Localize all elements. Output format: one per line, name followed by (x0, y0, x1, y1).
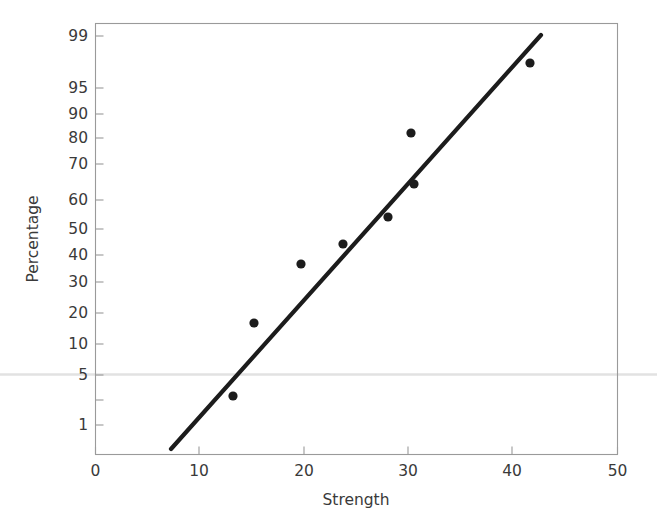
data-point (249, 318, 258, 327)
y-tick-label: 1 (78, 416, 88, 434)
fit-line (171, 35, 541, 449)
y-tick-label: 90 (68, 105, 88, 123)
data-point (406, 128, 415, 137)
y-tick-label: 80 (68, 129, 88, 147)
data-point (409, 179, 418, 188)
y-tick-label: 50 (68, 220, 88, 238)
y-tick-label: 5 (78, 366, 88, 384)
y-tick-marks (96, 36, 104, 425)
x-tick-labels: 0 10 20 30 40 50 (91, 462, 628, 480)
data-point (525, 58, 534, 67)
data-points (228, 58, 534, 400)
x-tick-label: 50 (608, 462, 628, 480)
y-tick-label: 20 (68, 304, 88, 322)
x-tick-label: 20 (294, 462, 314, 480)
y-tick-label: 99 (68, 27, 88, 45)
data-point (338, 239, 347, 248)
y-axis-title: Percentage (24, 195, 42, 282)
x-tick-label: 40 (502, 462, 522, 480)
y-tick-label: 40 (68, 246, 88, 264)
y-tick-label: 30 (68, 273, 88, 291)
x-tick-label: 0 (91, 462, 101, 480)
chart-canvas: 99 95 90 80 70 60 50 40 30 20 10 5 1 0 1… (0, 0, 657, 529)
y-tick-labels: 99 95 90 80 70 60 50 40 30 20 10 5 1 (68, 27, 88, 434)
y-tick-label: 95 (68, 79, 88, 97)
probability-plot-figure: 99 95 90 80 70 60 50 40 30 20 10 5 1 0 1… (0, 0, 657, 529)
x-tick-label: 10 (189, 462, 209, 480)
x-tick-label: 30 (398, 462, 418, 480)
y-tick-label: 70 (68, 155, 88, 173)
y-tick-label: 60 (68, 191, 88, 209)
data-point (296, 259, 305, 268)
data-point (228, 391, 237, 400)
data-point (383, 212, 392, 221)
x-axis-title: Strength (322, 491, 389, 509)
y-tick-label: 10 (68, 335, 88, 353)
